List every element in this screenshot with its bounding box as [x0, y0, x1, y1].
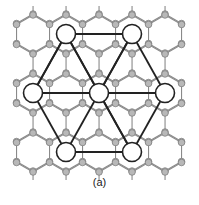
lattice-site: [129, 110, 136, 117]
lattice-site: [79, 80, 86, 87]
lattice-site: [129, 169, 136, 176]
lattice-site: [112, 21, 119, 28]
lattice-site: [129, 71, 136, 78]
lattice-site: [79, 159, 86, 166]
lattice-site: [145, 139, 152, 146]
lattice-site: [162, 130, 169, 137]
lattice-site: [30, 110, 37, 117]
lattice-site: [162, 71, 169, 78]
lattice-site: [96, 169, 103, 176]
lattice-site: [162, 169, 169, 176]
lattice-site: [178, 159, 185, 166]
superlattice-site-left: [24, 84, 43, 103]
lattice-site: [112, 139, 119, 146]
lattice-site: [63, 12, 70, 19]
superlattice-site-top-right: [123, 25, 142, 44]
lattice-site: [63, 71, 70, 78]
lattice-site: [30, 169, 37, 176]
lattice-site: [46, 139, 53, 146]
lattice-site: [145, 159, 152, 166]
lattice-site: [13, 80, 20, 87]
lattice-site: [46, 21, 53, 28]
lattice-site: [46, 80, 53, 87]
lattice-site: [178, 80, 185, 87]
lattice-site: [96, 130, 103, 137]
lattice-site: [46, 100, 53, 107]
lattice-site: [13, 159, 20, 166]
lattice-site: [178, 100, 185, 107]
lattice-site: [112, 41, 119, 48]
lattice-site: [13, 41, 20, 48]
lattice-site: [96, 110, 103, 117]
lattice-site: [129, 51, 136, 58]
lattice-site: [13, 21, 20, 28]
lattice-site: [96, 12, 103, 19]
lattice-site: [145, 80, 152, 87]
lattice-site: [79, 41, 86, 48]
lattice-site: [112, 100, 119, 107]
lattice-site: [79, 139, 86, 146]
lattice-site: [145, 21, 152, 28]
lattice-site: [129, 130, 136, 137]
lattice-site: [63, 51, 70, 58]
lattice-site: [178, 21, 185, 28]
lattice-site: [30, 51, 37, 58]
lattice-site: [79, 100, 86, 107]
lattice-site: [63, 110, 70, 117]
lattice-site: [145, 41, 152, 48]
lattice-site: [162, 110, 169, 117]
superlattice-site-bottom-left: [57, 143, 76, 162]
lattice-site: [46, 159, 53, 166]
lattice-site: [63, 169, 70, 176]
lattice-site: [112, 80, 119, 87]
lattice-site: [96, 51, 103, 58]
figure: (a): [0, 0, 199, 205]
lattice-site: [30, 130, 37, 137]
superlattice-site-bottom-right: [123, 143, 142, 162]
lattice-site: [46, 41, 53, 48]
lattice-site: [145, 100, 152, 107]
superlattice-site-center: [90, 84, 109, 103]
lattice-site: [178, 41, 185, 48]
lattice-site: [112, 159, 119, 166]
lattice-site: [30, 12, 37, 19]
honeycomb-superlattice-diagram: [0, 0, 199, 205]
lattice-site: [129, 12, 136, 19]
lattice-site: [162, 51, 169, 58]
lattice-site: [178, 139, 185, 146]
superlattice-site-right: [156, 84, 175, 103]
lattice-site: [30, 71, 37, 78]
lattice-site: [162, 12, 169, 19]
superlattice-site-top-left: [57, 25, 76, 44]
lattice-site: [63, 130, 70, 137]
figure-label: (a): [0, 176, 199, 188]
lattice-site: [79, 21, 86, 28]
lattice-site: [96, 71, 103, 78]
lattice-site: [13, 100, 20, 107]
lattice-site: [13, 139, 20, 146]
